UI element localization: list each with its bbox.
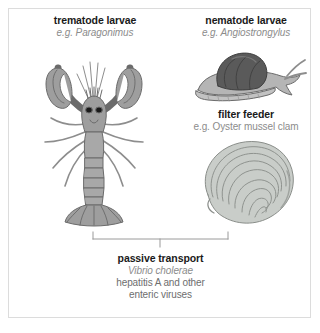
passive-transport-pathogen: Vibrio cholerae — [58, 265, 263, 277]
label-passive-transport: passive transport Vibrio cholerae hepati… — [58, 252, 263, 301]
label-trematode-larvae: trematode larvae e.g. Paragonimus — [20, 14, 170, 39]
trematode-title: trematode larvae — [20, 14, 170, 27]
oyster-illustration — [192, 137, 302, 229]
nematode-subtitle: e.g. Angiostrongylus — [176, 27, 316, 39]
label-nematode-larvae: nematode larvae e.g. Angiostrongylus — [176, 14, 316, 39]
filter-feeder-title: filter feeder — [176, 108, 316, 121]
trematode-subtitle: e.g. Paragonimus — [20, 27, 170, 39]
nematode-title: nematode larvae — [176, 14, 316, 27]
label-filter-feeder: filter feeder e.g. Oyster mussel clam — [176, 108, 316, 133]
passive-transport-title: passive transport — [58, 252, 263, 265]
figure-root: trematode larvae e.g. Paragonimus nemato… — [0, 0, 320, 333]
connector-bracket — [88, 230, 233, 250]
passive-transport-line4: enteric viruses — [58, 289, 263, 301]
lobster-illustration — [33, 46, 155, 226]
snail-illustration — [188, 46, 308, 104]
filter-feeder-subtitle: e.g. Oyster mussel clam — [176, 121, 316, 133]
passive-transport-line3: hepatitis A and other — [58, 277, 263, 289]
